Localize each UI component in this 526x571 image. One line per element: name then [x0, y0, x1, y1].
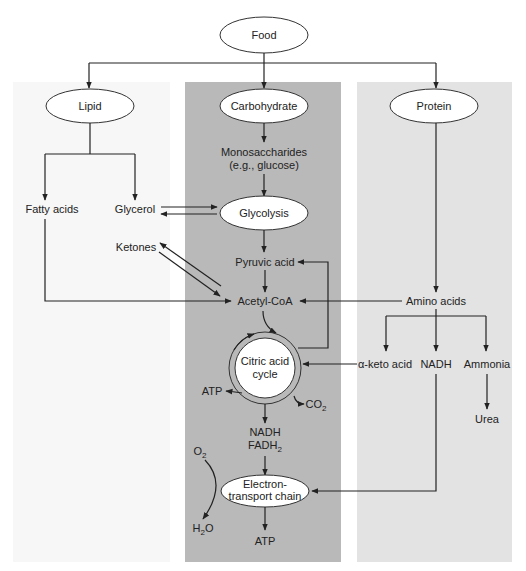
- glycolysis-label: Glycolysis: [239, 207, 289, 219]
- etc-label-line1: Electron-: [243, 478, 287, 490]
- nadh-protein-label: NADH: [420, 358, 451, 370]
- amino-acids-label: Amino acids: [406, 295, 466, 307]
- alpha-keto-acid-label: α-keto acid: [358, 358, 412, 370]
- atp-final-label: ATP: [255, 535, 276, 547]
- urea-label: Urea: [475, 413, 500, 425]
- nadh-label: NADH: [249, 426, 280, 438]
- monosaccharides-example-label: (e.g., glucose): [229, 159, 299, 171]
- metabolism-diagram: Food Lipid Carbohydrate Protein Fatty ac…: [0, 0, 526, 571]
- acetyl-coa-label: Acetyl-CoA: [237, 295, 293, 307]
- pyruvic-acid-label: Pyruvic acid: [235, 256, 294, 268]
- etc-label-line2: transport chain: [229, 490, 302, 502]
- protein-panel: [357, 82, 512, 562]
- monosaccharides-label: Monosaccharides: [221, 146, 308, 158]
- lipid-label: Lipid: [78, 100, 101, 112]
- citric-acid-label: Citric acid: [241, 355, 289, 367]
- protein-label: Protein: [417, 100, 452, 112]
- carbohydrate-label: Carbohydrate: [231, 100, 298, 112]
- food-label: Food: [251, 29, 276, 41]
- fatty-acids-label: Fatty acids: [25, 203, 79, 215]
- ketones-label: Ketones: [116, 241, 157, 253]
- ammonia-label: Ammonia: [464, 358, 511, 370]
- atp-cycle-label: ATP: [202, 385, 223, 397]
- food-branch-line: [89, 53, 436, 63]
- glycerol-label: Glycerol: [115, 203, 155, 215]
- cycle-label: cycle: [252, 368, 277, 380]
